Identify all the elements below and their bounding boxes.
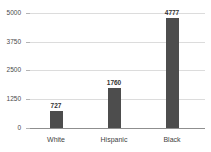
bar-black[interactable]: [166, 18, 179, 128]
bar-hispanic[interactable]: [108, 88, 121, 128]
category-label-hispanic: Hispanic: [90, 135, 138, 144]
bar-value-white: 727: [32, 102, 80, 110]
bar-chart: 5000 3750 2500 1250 0 727 1760: [0, 0, 211, 152]
bar-value-black: 4777: [148, 9, 196, 17]
category-label-white: White: [32, 135, 80, 144]
bar-white[interactable]: [50, 111, 63, 128]
bar-value-hispanic: 1760: [90, 79, 138, 87]
bars-layer: 727 1760 4777 White Hispanic Black: [0, 0, 211, 152]
category-label-black: Black: [148, 135, 196, 144]
